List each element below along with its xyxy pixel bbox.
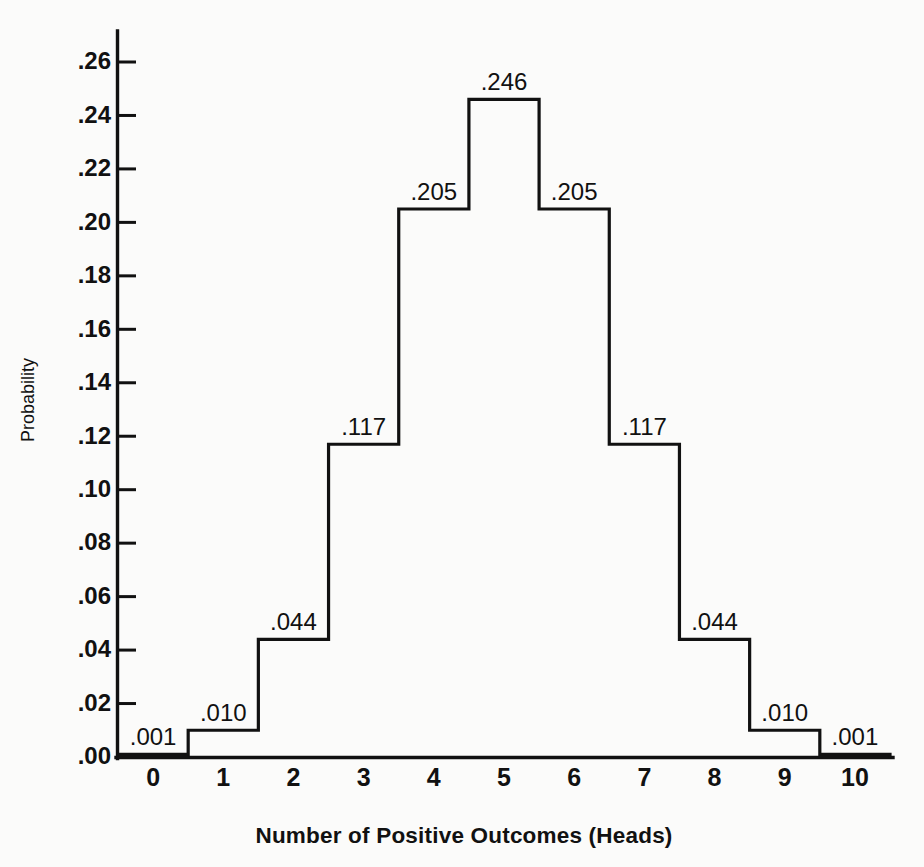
y-axis-tick-label: .14: [78, 368, 112, 395]
y-axis-tick-label: .18: [78, 261, 111, 288]
bar-6: [539, 209, 609, 757]
bar-value-label-5: .246: [481, 68, 528, 95]
y-axis-tick-label: .10: [78, 475, 111, 502]
y-axis-tick-label: .00: [78, 742, 111, 769]
bar-3: [329, 444, 399, 757]
bar-value-label-4: .205: [410, 178, 457, 205]
y-axis-tick-label: .22: [78, 154, 111, 181]
x-axis-tick-label-8: 8: [708, 763, 722, 791]
bar-value-label-6: .205: [551, 178, 598, 205]
y-axis-tick-label: .20: [78, 208, 111, 235]
x-axis-tick-label-0: 0: [146, 763, 160, 791]
y-axis-tick-label: .08: [78, 528, 111, 555]
bar-2: [258, 639, 328, 757]
y-axis-title: Probability: [18, 358, 38, 442]
bar-value-label-9: .010: [761, 699, 808, 726]
bar-value-label-7: .117: [622, 413, 667, 440]
bar-value-label-10: .001: [832, 723, 879, 750]
y-axis-tick-label: .16: [78, 315, 111, 342]
bar-5: [469, 99, 539, 757]
bar-4: [399, 209, 469, 757]
y-axis-ticks: .00.02.04.06.08.10.12.14.16.18.20.22.24.…: [78, 47, 136, 769]
histogram-plot: Probability .00.02.04.06.08.10.12.14.16.…: [0, 0, 924, 867]
bar-value-label-1: .010: [200, 699, 247, 726]
x-axis-tick-labels: 012345678910: [146, 763, 869, 791]
y-axis-tick-label: .06: [78, 582, 111, 609]
bar-value-label-8: .044: [691, 608, 738, 635]
y-axis-tick-label: .12: [78, 422, 111, 449]
bar-8: [679, 639, 749, 757]
x-axis-tick-label-5: 5: [497, 763, 511, 791]
y-axis-tick-label: .04: [78, 635, 112, 662]
chart-figure: Probability .00.02.04.06.08.10.12.14.16.…: [0, 0, 924, 867]
bar-value-label-0: .001: [130, 723, 177, 750]
bar-10: [820, 754, 890, 757]
y-axis-tick-label: .26: [78, 47, 111, 74]
x-axis-tick-label-3: 3: [357, 763, 371, 791]
x-axis-tick-label-1: 1: [216, 763, 230, 791]
bar-9: [750, 730, 820, 757]
bar-0: [118, 754, 188, 757]
x-axis-tick-label-10: 10: [841, 763, 869, 791]
x-axis-tick-label-2: 2: [287, 763, 301, 791]
y-axis-tick-label: .24: [78, 101, 112, 128]
y-axis-title-group: Probability: [18, 358, 38, 442]
x-axis-tick-label-9: 9: [778, 763, 792, 791]
x-axis-title: Number of Positive Outcomes (Heads): [255, 823, 672, 848]
x-axis-tick-label-6: 6: [567, 763, 581, 791]
bar-value-label-2: .044: [270, 608, 317, 635]
bar-value-label-3: .117: [341, 413, 386, 440]
bar-group: [118, 99, 890, 757]
bar-7: [609, 444, 679, 757]
bar-1: [188, 730, 258, 757]
x-axis-tick-label-7: 7: [637, 763, 651, 791]
y-axis-tick-label: .02: [78, 689, 111, 716]
x-axis-tick-label-4: 4: [427, 763, 441, 791]
